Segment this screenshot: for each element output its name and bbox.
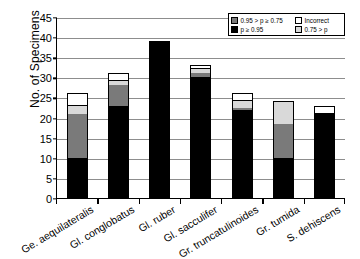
bar-segment: [190, 77, 211, 198]
bar-slot: [180, 18, 221, 198]
legend-label: Incorrect: [305, 16, 330, 25]
bar-segment: [273, 158, 294, 198]
legend-item-2: p ≥ 0.95: [231, 25, 295, 34]
bar[interactable]: [314, 106, 335, 198]
plot-area: 051015202530354045: [56, 18, 345, 199]
bar-segment: [273, 101, 294, 123]
y-tick-label: 10: [40, 153, 52, 165]
legend-label: 0.95 > p ≥ 0.75: [241, 16, 283, 25]
bar-segment: [149, 41, 170, 198]
legend-swatch-gray-icon: [231, 17, 238, 24]
y-tick-label: 20: [40, 113, 52, 125]
bar-segment: [232, 110, 253, 198]
bar-segment: [108, 106, 129, 199]
bar-segment: [108, 85, 129, 105]
legend-swatch-white-icon: [295, 17, 302, 24]
bar-segment: [67, 93, 88, 105]
bar-segment: [67, 106, 88, 114]
bar-segment: [273, 124, 294, 158]
legend-row: p ≥ 0.95 0.75 > p: [231, 25, 342, 34]
bar-segment: [67, 114, 88, 158]
legend-label: 0.75 > p: [305, 25, 328, 34]
bar[interactable]: [108, 73, 129, 198]
y-tick-label: 30: [40, 72, 52, 84]
y-tick-label: 45: [40, 12, 52, 24]
bar-segment: [314, 106, 335, 114]
y-tick-label: 40: [40, 32, 52, 44]
x-tick-label: Ge. aequilateralis: [19, 203, 95, 255]
bar-segment: [314, 114, 335, 198]
bar[interactable]: [190, 65, 211, 198]
bar[interactable]: [273, 101, 294, 198]
bar-slot: [57, 18, 98, 198]
legend-label: p ≥ 0.95: [241, 25, 264, 34]
legend-item-1: Incorrect: [295, 16, 342, 25]
legend-swatch-black-icon: [231, 26, 238, 33]
bar-slot: [304, 18, 345, 198]
y-tick-label: 0: [46, 193, 52, 205]
y-tick-label: 5: [46, 173, 52, 185]
stacked-bar-chart: No. of Specimens 051015202530354045 Ge. …: [0, 0, 360, 259]
chart-legend: 0.95 > p ≥ 0.75 Incorrect p ≥ 0.95 0.75 …: [228, 13, 345, 36]
legend-row: 0.95 > p ≥ 0.75 Incorrect: [231, 16, 342, 25]
y-tick-label: 25: [40, 92, 52, 104]
legend-swatch-ltgray-icon: [295, 26, 302, 33]
legend-item-3: 0.75 > p: [295, 25, 342, 34]
bar-series-container: [57, 18, 345, 198]
bar-slot: [139, 18, 180, 198]
bar-slot: [222, 18, 263, 198]
bar-segment: [108, 73, 129, 81]
legend-item-0: 0.95 > p ≥ 0.75: [231, 16, 295, 25]
y-tick-label: 35: [40, 52, 52, 64]
bar[interactable]: [232, 93, 253, 198]
bar[interactable]: [67, 93, 88, 198]
bar-slot: [263, 18, 304, 198]
x-axis-labels: Ge. aequilateralisGl. conglobatusGl. rub…: [56, 199, 345, 259]
bar-slot: [98, 18, 139, 198]
y-tick-label: 15: [40, 133, 52, 145]
bar-segment: [232, 93, 253, 101]
bar[interactable]: [149, 41, 170, 198]
bar-segment: [67, 158, 88, 198]
